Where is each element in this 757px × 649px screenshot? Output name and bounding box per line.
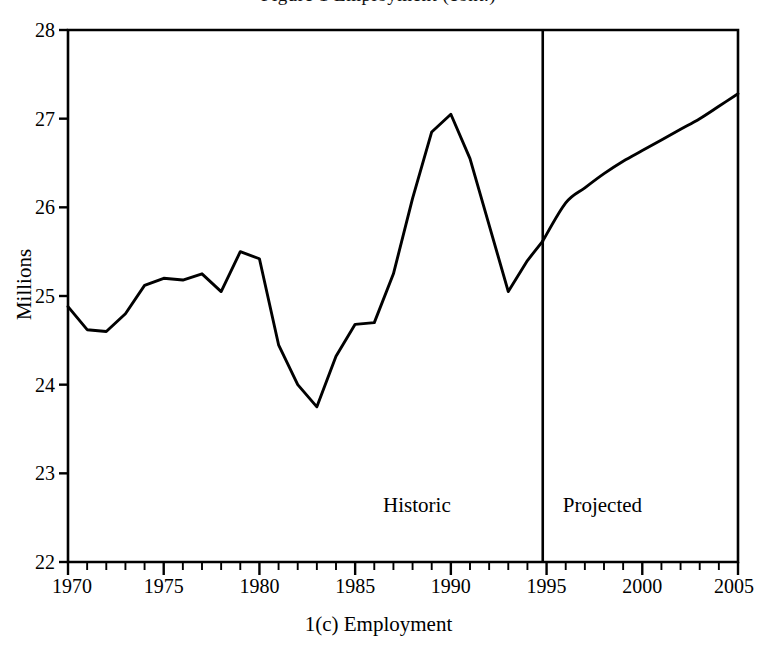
y-tick-label-27: 27 <box>15 109 55 129</box>
axis-frame <box>68 30 738 562</box>
y-tick-label-25: 25 <box>15 286 55 306</box>
employment-historic-line <box>68 114 543 407</box>
y-tick-label-23: 23 <box>15 463 55 483</box>
x-tick-label-1970: 1970 <box>37 576 107 596</box>
x-tick-label-1995: 1995 <box>512 576 582 596</box>
y-tick-label-22: 22 <box>15 552 55 572</box>
annotation-historic: Historic <box>383 493 451 518</box>
x-tick-label-1975: 1975 <box>129 576 199 596</box>
y-tick-label-26: 26 <box>15 197 55 217</box>
x-tick-label-1985: 1985 <box>320 576 390 596</box>
frame-outline <box>68 30 738 562</box>
figure-caption: 1(c) Employment <box>0 612 757 637</box>
y-tick-label-24: 24 <box>15 375 55 395</box>
x-axis-ticks <box>68 562 738 575</box>
x-tick-label-2005: 2005 <box>699 576 757 596</box>
x-tick-label-1980: 1980 <box>224 576 294 596</box>
y-axis-label: Millions <box>12 225 37 345</box>
y-tick-label-28: 28 <box>15 20 55 40</box>
employment-projected-line <box>543 94 738 241</box>
plot-area: Millions 22 23 24 25 26 27 28 1970 1975 … <box>0 0 757 649</box>
line-chart-svg <box>0 0 757 649</box>
y-axis-ticks <box>59 30 68 562</box>
x-tick-label-2000: 2000 <box>607 576 677 596</box>
annotation-projected: Projected <box>563 493 642 518</box>
x-tick-label-1990: 1990 <box>416 576 486 596</box>
employment-figure: Figure 1 Employment (cont.) Millions 22 … <box>0 0 757 649</box>
